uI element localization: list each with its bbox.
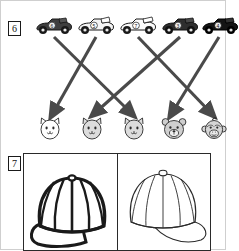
race-car-6-number: 6 [51, 23, 54, 29]
cap-thick-outline-panel[interactable] [24, 154, 117, 250]
match-line-car7-to-monkey[interactable] [138, 37, 211, 113]
exercise-7-picture-pair [23, 153, 211, 251]
cap-thick-outline [24, 154, 118, 250]
race-car-3-number: 3 [177, 23, 180, 29]
exercise-6-matching: 6 5 [23, 13, 221, 145]
race-car-6[interactable]: 6 [35, 16, 73, 36]
exercise-number-6: 6 [8, 21, 21, 36]
cap-thin-outline-panel[interactable] [117, 154, 210, 250]
cat-face-gray-1[interactable] [79, 116, 105, 142]
match-line-car4-to-bear[interactable] [172, 37, 219, 113]
cap-thin-outline [117, 154, 211, 250]
monkey-face[interactable] [201, 116, 227, 142]
match-line-car3-to-cat1[interactable] [95, 37, 180, 113]
race-car-7-number: 7 [135, 23, 138, 29]
race-car-3[interactable]: 3 [161, 16, 199, 36]
race-car-5-number: 5 [93, 23, 96, 29]
match-line-car5-to-cat-white[interactable] [53, 37, 96, 113]
exercise-number-7: 7 [8, 156, 21, 171]
match-line-car6-to-cat2[interactable] [54, 37, 131, 113]
cat-face-white[interactable] [37, 116, 63, 142]
race-car-5[interactable]: 5 [77, 16, 115, 36]
race-car-4[interactable]: 4 [201, 16, 239, 36]
cat-face-gray-2[interactable] [121, 116, 147, 142]
race-car-4-number: 4 [217, 23, 220, 29]
race-car-7[interactable]: 7 [119, 16, 157, 36]
bear-face[interactable] [161, 116, 187, 142]
